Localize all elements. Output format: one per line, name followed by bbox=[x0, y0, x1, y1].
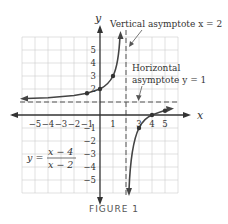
figure-graph: x y −5 −4 −3 −2 −1 1 3 4 5 5 4 3 2 −1 −2… bbox=[0, 0, 228, 224]
horizontal-asymptote-label-line1: Horizontal bbox=[132, 63, 180, 73]
svg-text:2: 2 bbox=[91, 84, 96, 94]
figure-caption: FIGURE 1 bbox=[0, 204, 228, 214]
x-axis-left-arrow-icon bbox=[10, 112, 18, 118]
svg-text:5: 5 bbox=[91, 45, 96, 55]
svg-text:−3: −3 bbox=[83, 149, 96, 159]
y-axis-label: y bbox=[94, 12, 102, 25]
equation-denominator: x − 2 bbox=[48, 159, 73, 170]
svg-text:5: 5 bbox=[162, 119, 167, 129]
svg-text:3: 3 bbox=[91, 71, 96, 81]
graph-canvas: x y −5 −4 −3 −2 −1 1 3 4 5 5 4 3 2 −1 −2… bbox=[0, 0, 228, 224]
svg-text:4: 4 bbox=[91, 58, 96, 68]
horizontal-asymptote-label-line2: asymptote y = 1 bbox=[132, 75, 206, 85]
curve-down-arrow-icon bbox=[126, 188, 132, 196]
svg-text:−2: −2 bbox=[83, 136, 96, 146]
svg-text:1: 1 bbox=[110, 119, 115, 129]
vertical-asymptote-pointer-arrow-icon bbox=[129, 41, 134, 47]
curve-right-arrow-icon bbox=[166, 106, 174, 112]
y-axis-up-arrow-icon bbox=[97, 25, 103, 33]
svg-text:−5: −5 bbox=[83, 175, 96, 185]
curve-left-arrow-icon bbox=[20, 96, 28, 102]
x-axis-label: x bbox=[197, 109, 204, 122]
svg-text:−2: −2 bbox=[68, 119, 81, 129]
equation: y = x − 4 x − 2 bbox=[26, 146, 76, 170]
equation-lhs: y = bbox=[26, 152, 43, 163]
svg-text:−4: −4 bbox=[83, 162, 96, 172]
svg-text:−5: −5 bbox=[29, 119, 42, 129]
horizontal-asymptote-pointer-arrow-icon bbox=[136, 95, 142, 101]
x-axis-right-arrow-icon bbox=[183, 112, 191, 118]
svg-text:−3: −3 bbox=[55, 119, 68, 129]
svg-text:4: 4 bbox=[149, 119, 154, 129]
svg-text:−4: −4 bbox=[42, 119, 55, 129]
svg-text:−1: −1 bbox=[83, 123, 96, 133]
curve-up-arrow-icon bbox=[118, 31, 124, 39]
svg-text:3: 3 bbox=[136, 119, 141, 129]
equation-numerator: x − 4 bbox=[48, 146, 73, 157]
x-tick-labels: −5 −4 −3 −2 −1 1 3 4 5 bbox=[29, 119, 168, 129]
vertical-asymptote-label: Vertical asymptote x = 2 bbox=[109, 19, 222, 29]
